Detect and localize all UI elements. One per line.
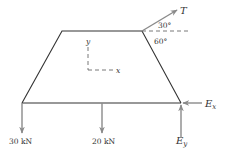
angle-30-label: 30°: [158, 21, 172, 30]
coordinate-axes: [88, 47, 114, 70]
reaction-ex-label: Ex: [204, 98, 216, 111]
load-30kn-label: 30 kN: [9, 137, 32, 146]
free-body-diagram: T 30° 60° y x 30 kN 20 kN Ex Ey: [0, 0, 226, 155]
reaction-ex-sub: x: [212, 103, 216, 111]
y-axis-label: y: [85, 37, 91, 46]
tension-label: T: [180, 5, 188, 16]
reaction-ey-label: Ey: [175, 135, 188, 148]
reaction-ey-sub: y: [182, 140, 188, 148]
load-20kn-label: 20 kN: [92, 137, 115, 146]
angle-60-label: 60°: [154, 37, 168, 46]
x-axis-label: x: [116, 66, 121, 75]
